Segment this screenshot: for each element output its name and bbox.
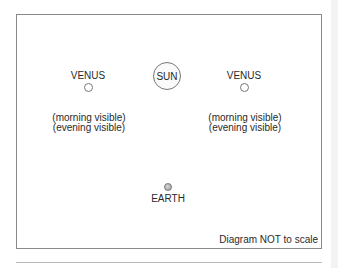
- venus-right-visibility-evening: (evening visible): [200, 123, 290, 133]
- earth-icon: [164, 183, 172, 191]
- venus-right-label: VENUS: [226, 70, 262, 81]
- venus-left-icon: [84, 83, 93, 92]
- sun-label: SUN: [156, 71, 177, 82]
- scale-note: Diagram NOT to scale: [219, 234, 318, 245]
- venus-left-visibility-evening: (evening visible): [44, 123, 134, 133]
- bottom-divider: [16, 262, 322, 263]
- venus-right-icon: [240, 83, 249, 92]
- page-edge-strip: [331, 0, 338, 268]
- venus-left-label: VENUS: [70, 70, 106, 81]
- earth-label: EARTH: [146, 193, 190, 204]
- sun-circle: SUN: [153, 62, 181, 90]
